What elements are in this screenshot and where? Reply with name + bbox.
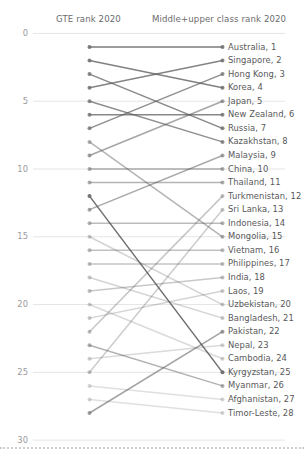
data-point xyxy=(221,316,225,320)
country-rank-label: Indonesia, 14 xyxy=(228,218,285,228)
data-point xyxy=(221,153,225,157)
data-point xyxy=(88,357,92,361)
data-point xyxy=(88,153,92,157)
data-point xyxy=(221,126,225,130)
data-point xyxy=(88,316,92,320)
data-point xyxy=(88,113,92,117)
country-rank-label: Japan, 5 xyxy=(228,96,262,106)
country-rank-label: New Zealand, 6 xyxy=(228,109,294,119)
data-point xyxy=(221,208,225,212)
data-point xyxy=(221,343,225,347)
data-point xyxy=(88,370,92,374)
data-point xyxy=(221,289,225,293)
data-point xyxy=(88,330,92,334)
data-point xyxy=(221,113,225,117)
country-rank-label: Uzbekistan, 20 xyxy=(228,299,291,309)
data-point xyxy=(88,86,92,90)
data-point xyxy=(221,384,225,388)
data-point xyxy=(221,275,225,279)
country-rank-label: Turkmenistan, 12 xyxy=(228,191,301,201)
country-rank-label: Mongolia, 15 xyxy=(228,231,282,241)
country-rank-label: Afghanistan, 27 xyxy=(228,394,295,404)
country-rank-label: Sri Lanka, 13 xyxy=(228,204,283,214)
data-point xyxy=(88,45,92,49)
country-rank-label: Russia, 7 xyxy=(228,123,266,133)
data-point xyxy=(88,343,92,347)
data-point xyxy=(88,411,92,415)
data-point xyxy=(88,303,92,307)
data-point xyxy=(88,248,92,252)
data-point xyxy=(221,86,225,90)
slope-line xyxy=(90,386,223,400)
data-point xyxy=(221,262,225,266)
data-point xyxy=(221,181,225,185)
data-point xyxy=(221,303,225,307)
country-rank-label: Myanmar, 26 xyxy=(228,380,284,390)
y-tick-label: 30 xyxy=(6,435,28,445)
country-rank-label: Singapore, 2 xyxy=(228,55,282,65)
data-point xyxy=(88,194,92,198)
slope-line xyxy=(90,101,223,155)
country-rank-label: Australia, 1 xyxy=(228,42,276,52)
data-point xyxy=(88,72,92,76)
country-rank-label: Vietnam, 16 xyxy=(228,245,279,255)
slope-line xyxy=(90,399,223,413)
y-tick-label: 20 xyxy=(6,299,28,309)
data-point xyxy=(221,330,225,334)
data-point xyxy=(88,126,92,130)
data-point xyxy=(88,397,92,401)
country-rank-label: Pakistan, 22 xyxy=(228,326,280,336)
data-point xyxy=(88,221,92,225)
data-point xyxy=(221,59,225,63)
country-rank-label: Philippines, 17 xyxy=(228,258,290,268)
data-point xyxy=(88,235,92,239)
data-point xyxy=(88,275,92,279)
country-rank-label: Thailand, 11 xyxy=(228,177,281,187)
y-tick-label: 25 xyxy=(6,367,28,377)
slope-line xyxy=(90,101,223,142)
y-tick-label: 5 xyxy=(6,96,28,106)
data-point xyxy=(88,181,92,185)
data-point xyxy=(221,45,225,49)
slope-lines-group xyxy=(90,47,223,413)
country-rank-label: Hong Kong, 3 xyxy=(228,69,285,79)
data-point xyxy=(221,194,225,198)
country-rank-label: Korea, 4 xyxy=(228,82,263,92)
y-tick-label: 15 xyxy=(6,231,28,241)
country-rank-label: Nepal, 23 xyxy=(228,340,269,350)
data-point xyxy=(88,99,92,103)
country-rank-label: Timor-Leste, 28 xyxy=(228,408,294,418)
data-point xyxy=(88,289,92,293)
data-point xyxy=(88,208,92,212)
country-rank-label: China, 10 xyxy=(228,164,268,174)
country-rank-label: Kazakhstan, 8 xyxy=(228,136,288,146)
country-rank-label: Cambodia, 24 xyxy=(228,353,287,363)
data-point xyxy=(221,99,225,103)
country-rank-label: Malaysia, 9 xyxy=(228,150,276,160)
country-rank-label: Kyrgyzstan, 25 xyxy=(228,367,291,377)
y-tick-label: 0 xyxy=(6,28,28,38)
data-point xyxy=(221,72,225,76)
data-point xyxy=(88,384,92,388)
data-point xyxy=(221,370,225,374)
country-rank-label: Bangladesh, 21 xyxy=(228,313,294,323)
data-point xyxy=(88,140,92,144)
data-point xyxy=(221,397,225,401)
data-point xyxy=(221,357,225,361)
data-point xyxy=(221,235,225,239)
data-point xyxy=(221,140,225,144)
country-rank-label: India, 18 xyxy=(228,272,265,282)
data-point xyxy=(221,221,225,225)
country-rank-label: Laos, 19 xyxy=(228,286,264,296)
data-point xyxy=(221,248,225,252)
slope-line xyxy=(90,237,223,305)
data-point xyxy=(221,411,225,415)
data-point xyxy=(221,167,225,171)
y-tick-label: 10 xyxy=(6,164,28,174)
data-point xyxy=(88,262,92,266)
data-point xyxy=(88,167,92,171)
data-point xyxy=(88,59,92,63)
